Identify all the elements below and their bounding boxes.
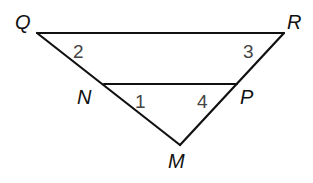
vertex-label-p: P: [240, 86, 254, 108]
angle-label-3: 3: [243, 41, 254, 62]
segment-QM: [37, 33, 180, 145]
segment-RM: [180, 33, 284, 145]
angle-label-2: 2: [73, 41, 84, 62]
vertex-label-r: R: [287, 11, 301, 33]
diagram: Q R N P M 2 3 1 4: [0, 0, 313, 183]
vertex-label-q: Q: [15, 11, 31, 33]
angle-label-1: 1: [135, 91, 146, 112]
angle-label-4: 4: [197, 91, 208, 112]
vertex-label-m: M: [168, 150, 185, 172]
vertex-label-n: N: [77, 86, 92, 108]
triangle-diagram: Q R N P M 2 3 1 4: [0, 0, 313, 183]
